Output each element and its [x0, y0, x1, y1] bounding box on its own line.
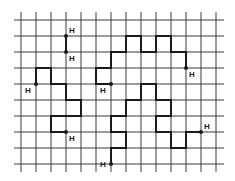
- endpoint-dot: [64, 34, 68, 38]
- endpoint-label: H: [69, 26, 75, 35]
- endpoint-dot: [109, 82, 113, 86]
- grid-figure: HHHHHHHH: [0, 0, 235, 181]
- endpoint-dot: [64, 130, 68, 134]
- endpoint-dot: [34, 82, 38, 86]
- endpoint-label: H: [189, 70, 195, 79]
- endpoint-label: H: [25, 86, 31, 95]
- endpoint-dot: [199, 130, 203, 134]
- endpoint-label: H: [100, 86, 106, 95]
- endpoint-label: H: [100, 160, 106, 169]
- endpoint-label: H: [204, 122, 210, 131]
- endpoint-label: H: [69, 54, 75, 63]
- endpoint-label: H: [69, 134, 75, 143]
- figure: HHHHHHHH: [0, 0, 235, 181]
- endpoint-dot: [184, 66, 188, 70]
- endpoint-dot: [109, 162, 113, 166]
- endpoint-dot: [64, 50, 68, 54]
